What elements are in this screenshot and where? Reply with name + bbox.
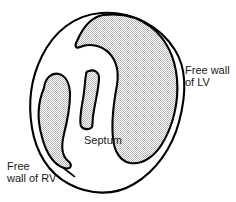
label-septum: Septum	[84, 134, 122, 146]
label-free-wall-of-lv: Free wall of LV	[185, 64, 230, 88]
heart-cross-section-figure: Free wall of LV Free wall of RV Septum	[0, 0, 236, 202]
label-free-wall-of-rv: Free wall of RV	[7, 160, 56, 184]
